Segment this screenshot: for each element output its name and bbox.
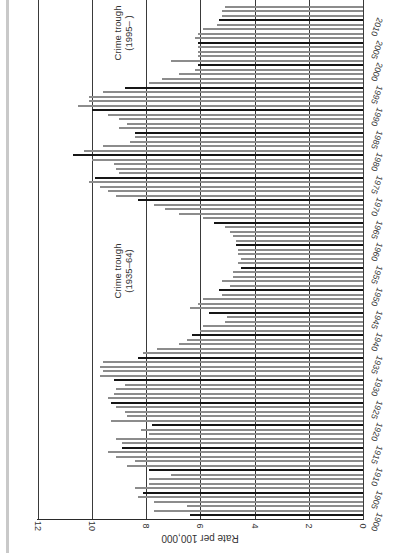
bar-1907 bbox=[149, 483, 363, 485]
bar-1931 bbox=[100, 375, 363, 377]
bar-1909 bbox=[171, 474, 363, 476]
homicide-rate-chart: Crime trough (1935–64) Crime trough (199… bbox=[0, 0, 396, 553]
zero-axis-line bbox=[363, 0, 364, 519]
bar-1910 bbox=[149, 469, 363, 471]
bar-1974 bbox=[89, 181, 363, 183]
bar-1957 bbox=[241, 258, 363, 260]
bar-1989 bbox=[108, 114, 363, 116]
bar-1961 bbox=[236, 240, 363, 242]
bar-1959 bbox=[238, 249, 363, 251]
value-tick-label: 2 bbox=[304, 519, 314, 533]
annotation-years: (1935–64) bbox=[123, 231, 134, 311]
bar-1918 bbox=[149, 433, 363, 435]
annotation-crime-trough-1935-64: Crime trough (1935–64) bbox=[112, 231, 134, 311]
bar-1968 bbox=[165, 208, 363, 210]
bar-1992 bbox=[89, 100, 363, 102]
value-tick-label: 8 bbox=[141, 519, 151, 533]
bar-1958 bbox=[238, 253, 363, 255]
bar-1938 bbox=[179, 343, 363, 345]
bar-1972 bbox=[108, 190, 363, 192]
bar-1937 bbox=[157, 348, 363, 350]
bar-1964 bbox=[225, 226, 363, 228]
gridline-10 bbox=[92, 0, 93, 519]
annotation-years: (1995– ) bbox=[123, 0, 134, 73]
bar-1913 bbox=[116, 456, 363, 458]
bar-1902 bbox=[187, 505, 363, 507]
bar-2010 bbox=[219, 19, 363, 21]
bar-1990 bbox=[92, 109, 363, 111]
bar-1942 bbox=[203, 325, 363, 327]
bar-1923 bbox=[125, 411, 363, 413]
bar-2011 bbox=[222, 15, 363, 17]
bar-1991 bbox=[78, 105, 363, 107]
bar-1932 bbox=[103, 370, 363, 372]
bar-1952 bbox=[222, 280, 363, 282]
value-tick-label: 6 bbox=[195, 519, 205, 533]
bar-1980 bbox=[73, 154, 363, 156]
bar-1975 bbox=[95, 177, 363, 179]
bar-2000 bbox=[198, 64, 363, 66]
bar-1919 bbox=[141, 429, 363, 431]
bar-1925 bbox=[111, 402, 363, 404]
bar-1905 bbox=[143, 492, 363, 494]
bar-1901 bbox=[154, 510, 363, 512]
bar-2012 bbox=[222, 10, 363, 12]
bar-1900 bbox=[190, 514, 363, 516]
bar-1948 bbox=[203, 298, 363, 300]
bar-1928 bbox=[116, 388, 363, 390]
bar-1908 bbox=[149, 478, 363, 480]
bar-1929 bbox=[125, 384, 363, 386]
bar-1976 bbox=[119, 172, 363, 174]
bar-1982 bbox=[103, 145, 363, 147]
bar-1981 bbox=[84, 150, 363, 152]
bar-1963 bbox=[230, 231, 363, 233]
bar-1922 bbox=[127, 415, 363, 417]
bar-2013 bbox=[225, 6, 363, 8]
bar-1987 bbox=[127, 123, 363, 125]
bar-1933 bbox=[100, 366, 363, 368]
bar-1983 bbox=[130, 141, 363, 143]
bar-1979 bbox=[92, 159, 363, 161]
bar-1904 bbox=[138, 496, 363, 498]
bar-2003 bbox=[198, 51, 363, 53]
bar-1954 bbox=[233, 271, 363, 273]
annotation-title: Crime trough bbox=[112, 0, 123, 73]
bar-1947 bbox=[198, 303, 363, 305]
bar-1997 bbox=[162, 78, 363, 80]
value-tick-label: 4 bbox=[250, 519, 260, 533]
bar-1915 bbox=[122, 447, 363, 449]
bar-1994 bbox=[103, 91, 363, 93]
bar-1978 bbox=[114, 163, 363, 165]
gridline-12 bbox=[38, 0, 39, 519]
annotation-crime-trough-1995: Crime trough (1995– ) bbox=[112, 0, 134, 73]
bar-1930 bbox=[114, 379, 363, 381]
bar-1999 bbox=[195, 69, 363, 71]
bar-1971 bbox=[116, 195, 363, 197]
bar-1953 bbox=[233, 276, 363, 278]
bar-1985 bbox=[135, 132, 363, 134]
bar-1911 bbox=[127, 465, 363, 467]
value-tick-label: 0 bbox=[358, 519, 368, 533]
bar-1949 bbox=[222, 294, 363, 296]
bar-1936 bbox=[143, 352, 363, 354]
bar-2004 bbox=[198, 46, 363, 48]
bar-1921 bbox=[111, 420, 363, 422]
annotation-title: Crime trough bbox=[112, 231, 123, 311]
bar-2008 bbox=[203, 28, 363, 30]
bar-1950 bbox=[219, 289, 363, 291]
bar-2007 bbox=[198, 33, 363, 35]
bar-1969 bbox=[154, 204, 363, 206]
value-tick-label: 10 bbox=[87, 519, 97, 533]
bar-1920 bbox=[152, 424, 363, 426]
bar-1965 bbox=[214, 222, 363, 224]
bar-1956 bbox=[238, 262, 363, 264]
bar-1998 bbox=[179, 73, 363, 75]
bar-1984 bbox=[135, 136, 363, 138]
bar-2001 bbox=[171, 60, 363, 62]
bar-1970 bbox=[138, 199, 363, 201]
bar-2002 bbox=[198, 55, 363, 57]
bar-1967 bbox=[179, 213, 363, 215]
bar-1943 bbox=[225, 321, 363, 323]
bar-1945 bbox=[209, 312, 363, 314]
value-axis-label: Rate per 100,000 bbox=[140, 533, 260, 544]
